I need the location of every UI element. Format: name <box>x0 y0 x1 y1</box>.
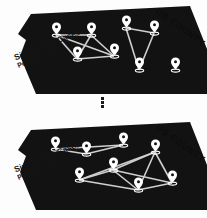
map-pin-icon <box>167 170 178 185</box>
map-pin-icon <box>74 167 85 182</box>
map-pin-icon <box>118 132 129 147</box>
ellipsis-dot <box>101 101 104 104</box>
map-pin-icon <box>149 20 160 35</box>
ellipsis-dot <box>101 105 104 108</box>
map-pin-icon <box>86 22 97 37</box>
map-pin-icon <box>170 57 181 72</box>
map-pin-icon <box>72 46 83 61</box>
t-to-sub: 2 <box>57 48 62 55</box>
map-pin-icon <box>109 43 120 58</box>
map-pin-icon <box>134 57 145 72</box>
map-pin-icon <box>121 15 132 30</box>
map-pin-icon <box>150 139 161 154</box>
figure-root: US COUNTY Similar NewCases Period T1 vs … <box>0 0 207 218</box>
map-pin-icon <box>133 177 144 192</box>
ellipsis-dot <box>101 97 104 100</box>
vertical-ellipsis-icon <box>101 97 104 108</box>
map-pin-icon <box>108 157 119 172</box>
graph-edge <box>79 180 138 190</box>
